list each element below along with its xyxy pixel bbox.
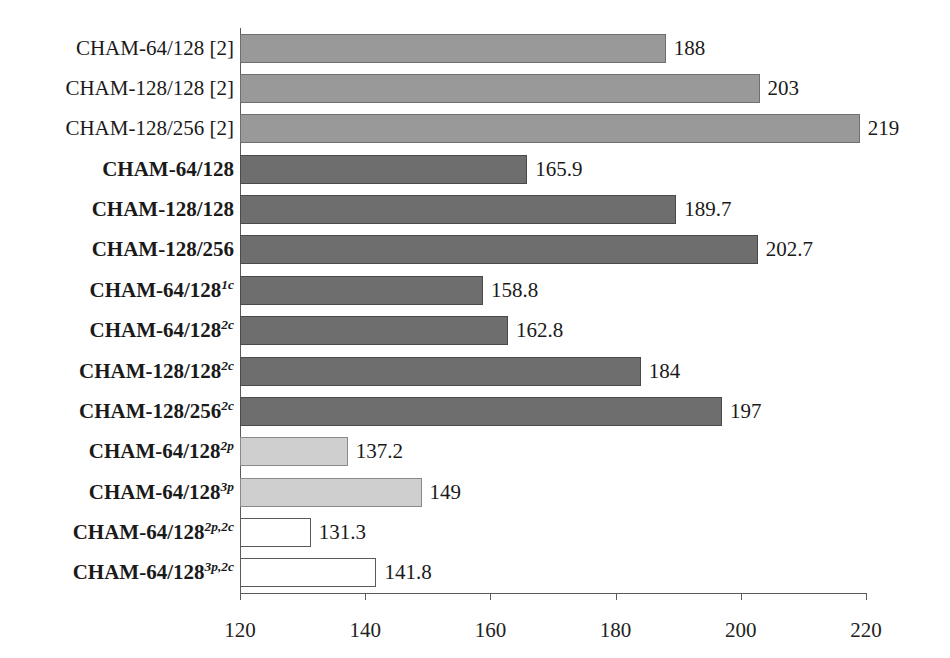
category-label-text: CHAM-128/256 — [79, 399, 221, 423]
bar-value-label: 158.8 — [491, 280, 538, 301]
category-label: CHAM-128/256 [2] — [65, 118, 234, 139]
bar[interactable] — [240, 397, 722, 426]
category-label-reference: [2] — [204, 36, 234, 60]
axis-tick-label-140: 140 — [349, 618, 381, 643]
bar[interactable] — [240, 276, 483, 305]
axis-tick-200 — [741, 593, 742, 600]
bar[interactable] — [240, 518, 311, 547]
axis-tick-160 — [490, 593, 491, 600]
bar[interactable] — [240, 478, 422, 507]
bar-row: 203 — [240, 74, 866, 103]
bar[interactable] — [240, 316, 508, 345]
bar[interactable] — [240, 34, 666, 63]
axis-tick-120 — [240, 593, 241, 600]
bar-value-label: 188 — [674, 38, 706, 59]
axis-tick-180 — [616, 593, 617, 600]
category-label-text: CHAM-64/128 — [73, 560, 205, 584]
category-label-superscript: 3p,2c — [205, 559, 234, 574]
bar-row: 184 — [240, 357, 866, 386]
bar-value-label: 141.8 — [384, 562, 431, 583]
bar-row: 162.8 — [240, 316, 866, 345]
bar[interactable] — [240, 114, 860, 143]
category-label: CHAM-64/1282c — [89, 320, 234, 341]
axis-tick-label-220: 220 — [850, 618, 882, 643]
bar[interactable] — [240, 195, 676, 224]
bar-row: 197 — [240, 397, 866, 426]
category-label-text: CHAM-64/128 — [89, 318, 221, 342]
category-label-column: CHAM-64/128 [2]CHAM-128/128 [2]CHAM-128/… — [0, 28, 234, 593]
bar-row: 141.8 — [240, 558, 866, 587]
bar[interactable] — [240, 235, 758, 264]
category-label: CHAM-64/128 — [102, 159, 234, 180]
category-label-text: CHAM-64/128 — [89, 480, 221, 504]
bar-value-label: 203 — [768, 78, 800, 99]
plot-area: 120140160180200220 188203219165.9189.720… — [240, 28, 866, 593]
axis-tick-label-180: 180 — [600, 618, 632, 643]
bar-value-label: 202.7 — [766, 239, 813, 260]
category-label: CHAM-128/128 — [92, 199, 234, 220]
category-label: CHAM-128/256 — [92, 239, 234, 260]
bar[interactable] — [240, 437, 348, 466]
bar-row: 131.3 — [240, 518, 866, 547]
category-label: CHAM-64/1283p — [89, 482, 234, 503]
bar[interactable] — [240, 155, 527, 184]
bar-row: 219 — [240, 114, 866, 143]
bar-value-label: 149 — [430, 482, 462, 503]
bar-row: 189.7 — [240, 195, 866, 224]
category-label-superscript: 2c — [221, 358, 234, 373]
bar-value-label: 165.9 — [535, 159, 582, 180]
category-label: CHAM-128/128 [2] — [65, 78, 234, 99]
axis-tick-220 — [866, 593, 867, 600]
category-label-text: CHAM-128/128 — [92, 197, 234, 221]
bar-value-label: 219 — [868, 118, 900, 139]
category-label-text: CHAM-128/256 — [92, 237, 234, 261]
category-label-reference: [2] — [204, 76, 234, 100]
bar-value-label: 189.7 — [684, 199, 731, 220]
category-label-text: CHAM-64/128 — [76, 36, 204, 60]
axis-tick-label-200: 200 — [725, 618, 757, 643]
category-label-text: CHAM-64/128 — [73, 520, 205, 544]
bar[interactable] — [240, 357, 641, 386]
category-label: CHAM-128/2562c — [79, 401, 234, 422]
category-label: CHAM-64/1282p — [89, 441, 234, 462]
axis-tick-label-120: 120 — [224, 618, 256, 643]
category-label-superscript: 2p — [221, 438, 234, 453]
category-label-text: CHAM-64/128 — [89, 278, 221, 302]
axis-tick-140 — [365, 593, 366, 600]
value-axis-line — [240, 593, 866, 594]
category-axis-line — [240, 28, 241, 593]
bar-value-label: 162.8 — [516, 320, 563, 341]
bar-row: 188 — [240, 34, 866, 63]
axis-tick-label-160: 160 — [475, 618, 507, 643]
category-label: CHAM-128/1282c — [79, 361, 234, 382]
bar-value-label: 131.3 — [319, 522, 366, 543]
bar-chart: CHAM-64/128 [2]CHAM-128/128 [2]CHAM-128/… — [0, 0, 950, 658]
category-label-text: CHAM-64/128 — [89, 439, 221, 463]
category-label: CHAM-64/1282p,2c — [73, 522, 234, 543]
category-label-superscript: 2p,2c — [205, 519, 234, 534]
category-label: CHAM-64/1283p,2c — [73, 562, 234, 583]
bar-row: 165.9 — [240, 155, 866, 184]
category-label-superscript: 3p — [221, 479, 234, 494]
category-label-superscript: 2c — [221, 398, 234, 413]
bar-row: 202.7 — [240, 235, 866, 264]
bar[interactable] — [240, 74, 760, 103]
category-label: CHAM-64/128 [2] — [76, 38, 234, 59]
bar-row: 158.8 — [240, 276, 866, 305]
bar-value-label: 197 — [730, 401, 762, 422]
bar-value-label: 137.2 — [356, 441, 403, 462]
category-label-text: CHAM-128/128 — [79, 359, 221, 383]
category-label-text: CHAM-128/128 — [65, 76, 204, 100]
category-label: CHAM-64/1281c — [89, 280, 234, 301]
bar-row: 149 — [240, 478, 866, 507]
bar-row: 137.2 — [240, 437, 866, 466]
category-label-superscript: 1c — [221, 277, 234, 292]
category-label-text: CHAM-128/256 — [65, 116, 204, 140]
category-label-reference: [2] — [204, 116, 234, 140]
bar[interactable] — [240, 558, 376, 587]
category-label-text: CHAM-64/128 — [102, 157, 234, 181]
bar-value-label: 184 — [649, 361, 681, 382]
category-label-superscript: 2c — [221, 317, 234, 332]
